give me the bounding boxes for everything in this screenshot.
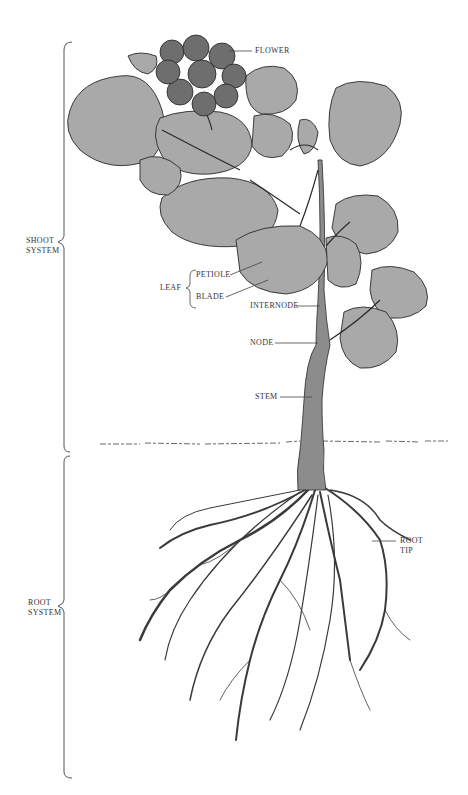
leaf-label: LEAF xyxy=(160,283,181,293)
leaf-bracket xyxy=(186,270,196,308)
flower-label: FLOWER xyxy=(255,46,290,56)
roots xyxy=(140,488,410,740)
leaf xyxy=(329,81,402,166)
leaf xyxy=(68,76,165,166)
leaves xyxy=(68,53,428,368)
flower-cluster xyxy=(156,35,246,116)
shoot-system-label: SHOOT SYSTEM xyxy=(26,236,59,256)
leaf xyxy=(252,114,293,157)
shoot-system-bracket xyxy=(58,42,72,452)
leaf xyxy=(326,236,361,287)
leaf xyxy=(236,226,328,294)
leaf xyxy=(340,307,398,368)
leaf xyxy=(298,119,318,154)
petiole-label: PETIOLE xyxy=(196,270,231,280)
blade-label: BLADE xyxy=(196,292,224,302)
root-tip-label: ROOT TIP xyxy=(400,536,423,556)
leaf xyxy=(128,53,157,74)
internode-label: INTERNODE xyxy=(250,301,298,311)
root-system-label: ROOT SYSTEM xyxy=(28,598,61,618)
stem xyxy=(297,160,330,490)
stem-label: STEM xyxy=(255,392,278,402)
plant-illustration xyxy=(0,0,468,795)
ground-line xyxy=(100,441,448,444)
leaf xyxy=(246,66,298,114)
node-label: NODE xyxy=(250,338,273,348)
